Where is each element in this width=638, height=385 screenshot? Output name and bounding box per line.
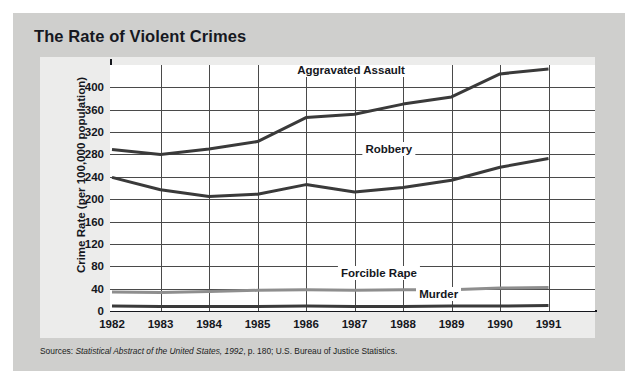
x-axis-tick-labels: 1982198319841985198619871988198919901991 bbox=[110, 318, 595, 338]
x-axis-tick: 1987 bbox=[342, 318, 368, 330]
page-title: The Rate of Violent Crimes bbox=[34, 27, 246, 46]
x-axis-tick: 1990 bbox=[487, 318, 513, 330]
x-axis-tick: 1989 bbox=[439, 318, 465, 330]
y-axis-tick: 400 bbox=[85, 81, 104, 93]
x-axis-tick: 1988 bbox=[390, 318, 416, 330]
y-axis-tick: 320 bbox=[85, 126, 104, 138]
source-suffix: , p. 180; U.S. Bureau of Justice Statist… bbox=[243, 346, 397, 356]
series-label: Robbery bbox=[362, 142, 415, 156]
series-label: Aggravated Assault bbox=[294, 65, 408, 77]
plot-area: Aggravated AssaultRobberyForcible RapeMu… bbox=[110, 65, 595, 311]
series-label: Murder bbox=[416, 287, 461, 301]
y-axis-tick: 240 bbox=[85, 171, 104, 183]
x-axis-tick: 1985 bbox=[245, 318, 271, 330]
y-axis-tick: 160 bbox=[85, 216, 104, 228]
x-axis-tick: 1986 bbox=[293, 318, 319, 330]
x-axis-tick: 1984 bbox=[196, 318, 222, 330]
y-axis-tick: 120 bbox=[85, 238, 104, 250]
y-axis-tick: 280 bbox=[85, 148, 104, 160]
x-axis-tick: 1991 bbox=[536, 318, 562, 330]
x-axis-tick: 1982 bbox=[99, 318, 125, 330]
chart-screenshot: The Rate of Violent Crimes Crime Rate (p… bbox=[0, 0, 638, 385]
y-axis-tick: 40 bbox=[91, 283, 104, 295]
chart-card: The Rate of Violent Crimes Crime Rate (p… bbox=[13, 13, 625, 371]
series-line bbox=[112, 158, 549, 196]
source-note: Sources: Statistical Abstract of the Uni… bbox=[40, 346, 397, 356]
series-line bbox=[112, 288, 549, 293]
y-axis-tick: 0 bbox=[98, 305, 104, 317]
source-prefix: Sources: bbox=[40, 346, 75, 356]
y-axis-tick: 80 bbox=[91, 260, 104, 272]
source-title: Statistical Abstract of the United State… bbox=[75, 346, 243, 356]
chart-panel: Crime Rate (per 100,000 population) 4003… bbox=[40, 57, 595, 338]
y-axis-tick: 200 bbox=[85, 193, 104, 205]
x-axis-tick: 1983 bbox=[148, 318, 174, 330]
series-line bbox=[112, 69, 549, 155]
series-line bbox=[112, 305, 549, 306]
y-axis-tick: 360 bbox=[85, 104, 104, 116]
series-label: Forcible Rape bbox=[338, 266, 420, 280]
y-axis-tick-labels: 40036032028024020016012080400 bbox=[64, 57, 104, 338]
